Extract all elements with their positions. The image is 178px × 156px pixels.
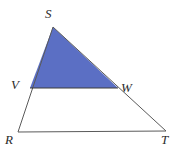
vertex-label-T: T (161, 133, 168, 146)
geometry-canvas (0, 0, 178, 156)
vertex-label-V: V (11, 78, 19, 91)
vertex-label-R: R (5, 133, 13, 146)
vertex-label-W: W (121, 81, 132, 94)
geometry-figure: S V W R T (0, 0, 178, 156)
vertex-label-S: S (45, 7, 52, 20)
